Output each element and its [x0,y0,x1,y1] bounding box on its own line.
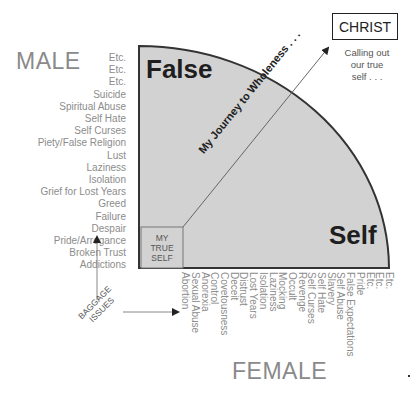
female-issue: Covetousness [219,272,229,357]
female-issue: Etc. [375,272,385,357]
female-issue: Control [210,272,220,357]
christ-subtitle: Calling out our true self . . . [338,47,396,83]
female-issues-list: Etc. Etc. Etc. Pride False Expectations … [181,272,394,357]
female-issue: Abortion [181,272,191,357]
female-issue: Revenge [297,272,307,357]
christ-subtitle-line: our true [338,59,396,71]
female-issue: Self Abuse [336,272,346,357]
female-issue: Isolation [258,272,268,357]
female-issue: Self Curses [307,272,317,357]
true-self-line: SELF [141,253,183,263]
self-label: Self [329,220,377,251]
female-issue: Pride [355,272,365,357]
my-true-self-box: MY TRUE SELF [141,227,183,268]
female-issue: Anorexia [200,272,210,357]
female-issue: Slavery [326,272,336,357]
female-issue: Sexual Abuse [190,272,200,357]
female-issue: False Expectations [345,272,355,357]
stray-dot [408,375,410,377]
true-self-line: TRUE [141,243,183,253]
female-issue: Etc. [365,272,375,357]
false-label: False [146,54,213,85]
female-issue: Etc. [384,272,394,357]
female-issue: Occult [287,272,297,357]
female-issue: Lost Years [248,272,258,357]
female-issue: Mocking [278,272,288,357]
female-issue: Deceit [229,272,239,357]
true-self-line: MY [141,233,183,243]
female-issue: Distrust [239,272,249,357]
female-issue: Self Hate [316,272,326,357]
christ-subtitle-line: self . . . [338,71,396,83]
christ-box: CHRIST [332,13,398,40]
female-issue: Laziness [268,272,278,357]
christ-subtitle-line: Calling out [338,47,396,59]
